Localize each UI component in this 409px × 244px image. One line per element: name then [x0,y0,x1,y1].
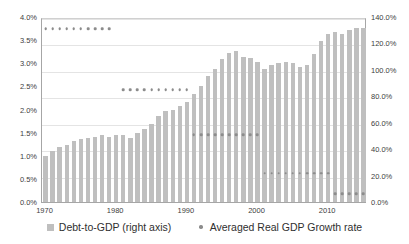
scatter-dot [277,172,280,175]
left-axis-tick-label: 3.0% [3,60,37,68]
scatter-dot [214,134,217,137]
scatter-dot [80,27,83,30]
left-axis-tick-label: 4.0% [3,14,37,22]
left-axis-tick-label: 2.0% [3,107,37,115]
scatter-dot [256,134,259,137]
scatter-dot [44,27,47,30]
right-axis-tick-label: 120.0% [371,40,396,48]
scatter-dot [221,134,224,137]
scatter-dot [178,89,181,92]
scatter-dot [228,134,231,137]
scatter-dot [171,89,174,92]
x-axis-tick-label: 1980 [107,206,124,215]
scatter-dot [341,192,344,195]
right-axis-tick-label: 40.0% [371,146,392,154]
scatter-dot [136,89,139,92]
left-axis-tick-label: 1.5% [3,130,37,138]
scatter-dot [87,27,90,30]
scatter-dot [270,172,273,175]
scatter-dot [51,27,54,30]
scatter-dot [355,192,358,195]
scatter-dot [313,172,316,175]
scatter-dot [150,89,153,92]
scatter-dot [143,89,146,92]
scatter-dot [101,27,104,30]
x-axis-tick-label: 1970 [36,206,53,215]
scatter-dot [207,134,210,137]
scatter-dot [362,192,365,195]
left-axis-tick-label: 2.5% [3,83,37,91]
scatter-dot [164,89,167,92]
scatter-dot [263,172,266,175]
chart-container: 0.0%0.5%1.0%1.5%2.0%2.5%3.0%3.5%4.0% 0.0… [0,0,409,244]
right-axis-tick-label: 20.0% [371,173,392,181]
scatter-dot [72,27,75,30]
scatter-dot [284,172,287,175]
scatter-dot [306,172,309,175]
legend-item-debt-to-gdp[interactable]: Debt-to-GDP (right axis) [47,221,171,233]
legend-item-growth-rate[interactable]: Averaged Real GDP Growth rate [197,221,362,233]
x-axis-tick-label: 2000 [248,206,265,215]
right-axis-tick-label: 80.0% [371,93,392,101]
scatter-dot [122,89,125,92]
legend-square-marker-icon [47,224,54,231]
scatter-dot [334,192,337,195]
scatter-dot [186,89,189,92]
scatter-dot [292,172,295,175]
right-axis-tick-label: 140.0% [371,14,396,22]
plot-area [41,18,366,203]
scatter-dot [348,192,351,195]
legend: Debt-to-GDP (right axis) Averaged Real G… [0,221,409,233]
scatter-dot [58,27,61,30]
x-axis-tick-label: 1990 [177,206,194,215]
scatter-dot [320,172,323,175]
scatter-dot [129,89,132,92]
scatter-dot [65,27,68,30]
scatter-dot [235,134,238,137]
scatter-dot [299,172,302,175]
scatter-dot [249,134,252,137]
scatter-dot [193,134,196,137]
left-axis-tick-label: 0.0% [3,199,37,207]
scatter-dot [327,172,330,175]
right-axis-tick-label: 0.0% [371,199,388,207]
scatter-dot [94,27,97,30]
right-axis-tick-label: 60.0% [371,120,392,128]
legend-item-label: Debt-to-GDP (right axis) [59,221,171,233]
x-axis-tick-label: 2010 [319,206,336,215]
legend-dot-marker-icon [199,225,202,228]
right-axis-tick-label: 100.0% [371,67,396,75]
scatter-dot [200,134,203,137]
left-axis-tick-label: 1.0% [3,153,37,161]
scatter-dot [242,134,245,137]
left-axis-tick-label: 0.5% [3,176,37,184]
scatter-dot [157,89,160,92]
left-axis-tick-label: 3.5% [3,37,37,45]
legend-item-label: Averaged Real GDP Growth rate [210,221,363,233]
scatter-dot [108,27,111,30]
scatter-series-growth-rate [42,19,365,202]
